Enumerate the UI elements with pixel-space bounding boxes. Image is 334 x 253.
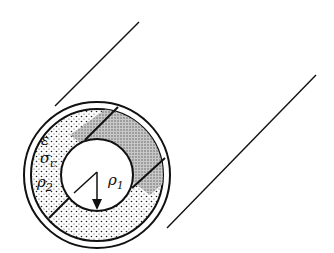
label-epsilon: ε — [41, 131, 49, 149]
coax-diagram: ε σc ρ2 ρ1 — [0, 0, 334, 253]
cable-edge-bottom — [167, 75, 316, 228]
cable-edge-top — [55, 22, 139, 106]
